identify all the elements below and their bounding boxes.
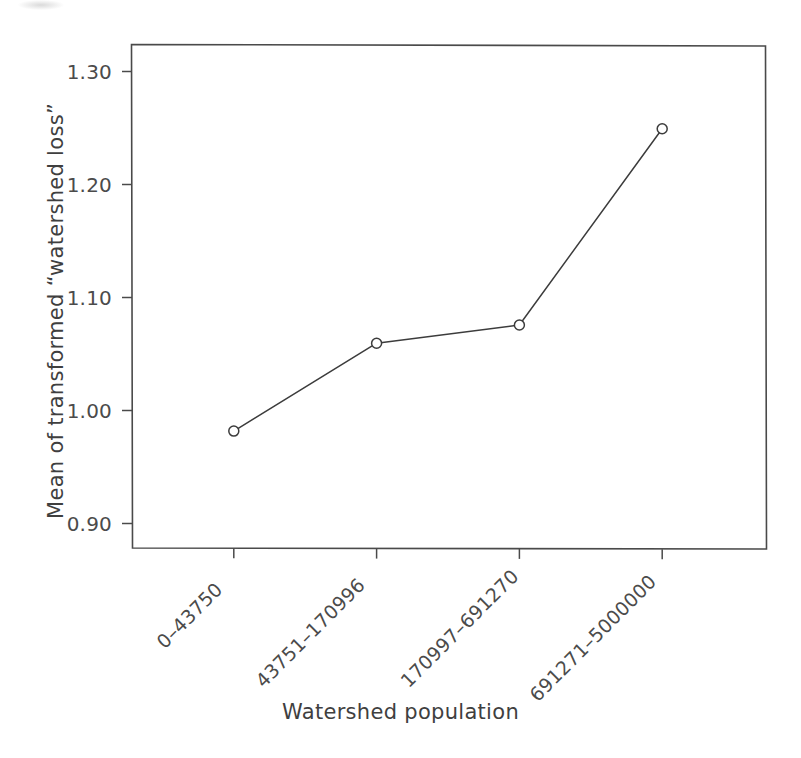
plot-box-border	[132, 45, 767, 550]
data-point-1	[372, 338, 382, 348]
data-point-3	[657, 124, 667, 134]
y-tick-label-1-30: 1.30	[40, 60, 112, 84]
data-point-0	[229, 426, 239, 436]
x-axis-title: Watershed population	[0, 700, 801, 724]
plot-frame	[132, 45, 767, 550]
y-axis-title: Mean of transformed “watershed loss”	[44, 103, 68, 519]
series-polyline	[234, 129, 662, 431]
data-series-line	[234, 129, 662, 431]
line-chart-plot	[0, 0, 801, 758]
y-axis-ticks	[122, 72, 132, 524]
data-markers	[229, 124, 667, 436]
x-axis-ticks	[234, 548, 662, 559]
figure-canvas: 1.30 1.20 1.10 1.00 0.90 0–43750 43751–1…	[0, 0, 801, 758]
data-point-2	[514, 320, 524, 330]
